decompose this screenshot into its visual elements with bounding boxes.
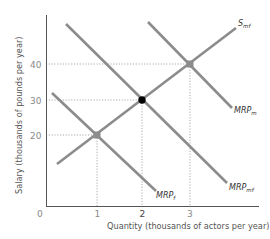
y-tick-30: 30 bbox=[30, 96, 42, 106]
label-mrp-f: MRPf bbox=[156, 191, 176, 201]
point-2-30-equilibrium bbox=[138, 96, 145, 103]
label-s-mf: Smf bbox=[238, 19, 251, 29]
y-axis-label: Salary (thousands of pounds per year) bbox=[14, 37, 24, 194]
label-mrp-mf: MRPmf bbox=[229, 183, 255, 193]
point-3-40 bbox=[187, 61, 194, 68]
y-tick-20: 20 bbox=[30, 131, 42, 141]
origin-label: 0 bbox=[37, 209, 43, 219]
chart: 40 30 20 0 1 2 3 Quantity (thousands of … bbox=[0, 0, 270, 239]
point-1-20 bbox=[94, 132, 101, 139]
x-tick-1: 1 bbox=[95, 209, 101, 219]
label-mrp-m: MRPm bbox=[234, 106, 257, 116]
curve-mrp-mf bbox=[66, 24, 227, 183]
x-axis-label: Quantity (thousands of actors per year) bbox=[107, 221, 269, 231]
x-tick-2: 2 bbox=[140, 209, 146, 219]
guide-lines bbox=[46, 64, 190, 206]
curves bbox=[52, 22, 236, 191]
x-tick-3: 3 bbox=[187, 209, 193, 219]
y-tick-40: 40 bbox=[30, 60, 42, 70]
curve-mrp-f bbox=[52, 93, 156, 191]
curve-s-mf bbox=[57, 28, 236, 164]
